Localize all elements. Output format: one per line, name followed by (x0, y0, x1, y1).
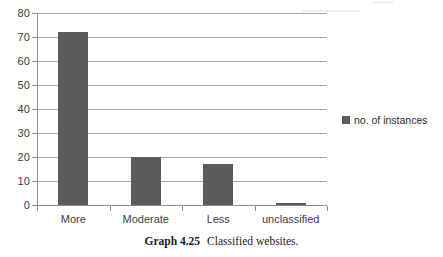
y-axis-tick-label: 70 (4, 32, 30, 43)
bars-layer (37, 13, 327, 205)
y-axis-tick-label: 10 (4, 176, 30, 187)
y-axis-tick-label: 80 (4, 8, 30, 19)
y-axis-tick-label: 0 (4, 200, 30, 211)
y-axis-tick (32, 109, 37, 110)
chart-figure: 01020304050607080 MoreModerateLessunclas… (0, 0, 443, 257)
figure-number: Graph 4.25 (145, 235, 201, 247)
legend-square-icon (342, 116, 350, 124)
y-axis-tick (32, 133, 37, 134)
scan-artifact (302, 10, 360, 12)
figure-caption-text: Classified websites. (207, 235, 298, 247)
scan-artifact (372, 1, 394, 4)
x-axis-tick-labels: MoreModerateLessunclassified (37, 213, 327, 229)
y-axis-tick-label: 60 (4, 56, 30, 67)
x-axis-tick (37, 206, 38, 211)
bar (58, 32, 88, 205)
bar (203, 164, 233, 205)
y-axis-tick-label: 40 (4, 104, 30, 115)
y-axis-tick (32, 157, 37, 158)
y-axis-tick-label: 20 (4, 152, 30, 163)
y-axis-tick (32, 61, 37, 62)
y-axis-tick (32, 181, 37, 182)
y-axis-tick-labels: 01020304050607080 (0, 0, 30, 257)
figure-caption: Graph 4.25Classified websites. (0, 234, 443, 248)
y-axis-tick (32, 13, 37, 14)
bar (131, 157, 161, 205)
chart-legend: no. of instances (342, 114, 428, 126)
y-axis-tick-label: 30 (4, 128, 30, 139)
legend-label: no. of instances (354, 114, 428, 126)
x-axis-tick-label: Moderate (110, 213, 183, 226)
x-axis-tick-label: Less (182, 213, 255, 226)
y-axis-tick-label: 50 (4, 80, 30, 91)
x-axis-tick (110, 206, 111, 211)
x-axis-tick (255, 206, 256, 211)
x-axis-tick-label: unclassified (255, 213, 328, 226)
x-axis-tick (327, 206, 328, 211)
y-axis-tick (32, 85, 37, 86)
x-axis-tick (182, 206, 183, 211)
y-axis-tick (32, 37, 37, 38)
x-axis-tick-label: More (37, 213, 110, 226)
